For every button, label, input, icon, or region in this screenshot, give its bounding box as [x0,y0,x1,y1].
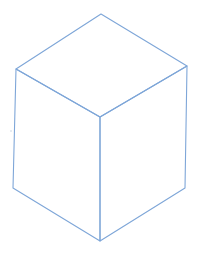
stray-pencil-mark [10,130,11,131]
cube-illustration [0,0,198,254]
drawing-canvas [0,0,198,254]
cube-left-face [13,69,100,241]
cube-right-face [100,66,187,241]
cube-top-face [16,14,187,117]
